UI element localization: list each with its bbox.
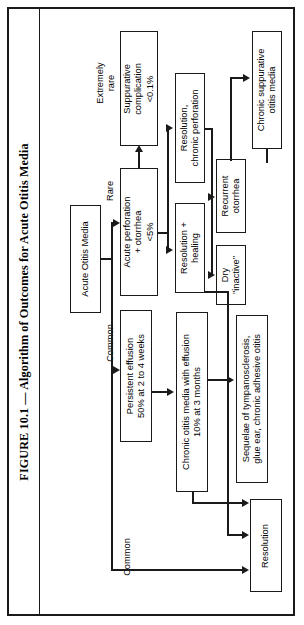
edge-label-rare: Rare xyxy=(103,169,117,213)
connector-trunk-vertical xyxy=(111,222,113,570)
node-persistent-effusion[interactable]: Persistent effusion50% at 2 to 4 weeks xyxy=(120,310,152,442)
connector-reshealing-right xyxy=(205,291,229,293)
arrowhead-res-healing xyxy=(166,246,173,254)
node-label: Resolution xyxy=(260,500,271,591)
arrowhead-persistent-effusion xyxy=(113,366,120,374)
node-label: Suppurativecomplication<0.1% xyxy=(122,32,156,145)
node-chronic-otitis-media-effusion[interactable]: Chronic otitis media with effusion10% at… xyxy=(176,312,208,492)
connector-perforation-suppurative xyxy=(138,149,140,169)
node-label: Sequelae of tympanosclerosis,glue ear, c… xyxy=(241,316,264,482)
node-label: Recurrentotorrhea xyxy=(220,160,243,232)
arrowhead-res-chronic xyxy=(166,124,173,132)
node-acute-otitis-media[interactable]: Acute Otitis Media xyxy=(70,205,101,313)
arrowhead-csom xyxy=(243,74,250,82)
connector-suppurative-csom xyxy=(266,149,268,163)
arrowhead-recurrent xyxy=(208,193,215,201)
node-label: Acute perforation+ otorrhea<5% xyxy=(122,169,156,295)
node-label: Dry"inactive" xyxy=(220,246,243,304)
arrowhead-suppurative xyxy=(135,145,143,152)
arrowhead-resolution-come xyxy=(242,499,249,507)
figure-title-strip: FIGURE 10.1 — Algorithm of Outcomes for … xyxy=(9,9,40,614)
connector-come-to-resolution xyxy=(192,502,245,504)
node-sequelae[interactable]: Sequelae of tympanosclerosis,glue ear, c… xyxy=(236,315,268,483)
connector-recurrent-up xyxy=(230,77,232,161)
node-resolution-healing[interactable]: Resolution +healing xyxy=(175,203,205,293)
node-label: Persistent effusion50% at 2 to 4 weeks xyxy=(125,311,148,441)
node-recurrent-otorrhea[interactable]: Recurrentotorrhea xyxy=(216,159,246,233)
node-label: Acute Otitis Media xyxy=(80,206,91,312)
arrowhead-resolution-common xyxy=(242,566,249,574)
node-resolution-chronic-perforation[interactable]: Resolution,chronic perforation xyxy=(175,73,205,183)
node-label: Resolution,chronic perforation xyxy=(179,74,202,182)
edge-label-extremely-rare: Extremelyrare xyxy=(97,47,115,119)
node-suppurative-complication[interactable]: Suppurativecomplication<0.1% xyxy=(120,31,158,146)
figure-frame: FIGURE 10.1 — Algorithm of Outcomes for … xyxy=(7,7,295,616)
edge-label-common-top: Common xyxy=(103,315,117,371)
connector-reshealing-down xyxy=(227,291,229,535)
node-resolution[interactable]: Resolution xyxy=(250,499,282,592)
node-label: Chronic otitis media with effusion10% at… xyxy=(181,313,204,491)
node-acute-perforation[interactable]: Acute perforation+ otorrhea<5% xyxy=(120,168,158,296)
edge-label-common-bottom: Common xyxy=(120,529,134,585)
connector-reschronic-branch-vertical xyxy=(211,128,213,275)
page-title: FIGURE 10.1 — Algorithm of Outcomes for … xyxy=(17,143,32,480)
arrowhead-sequelae xyxy=(227,376,234,384)
node-dry-inactive[interactable]: Dry"inactive" xyxy=(216,245,246,305)
arrowhead-come xyxy=(167,388,174,396)
arrowhead-resolution-healing xyxy=(242,531,249,539)
flowchart-canvas: Acute Otitis Media Acute perforation+ ot… xyxy=(40,9,293,614)
connector-perforation-branch-vertical xyxy=(167,127,169,250)
node-chronic-suppurative-otitis-media[interactable]: Chronic suppurativeotitis media xyxy=(252,31,282,149)
arrowhead-dry xyxy=(208,271,215,279)
node-label: Resolution +healing xyxy=(179,204,202,292)
connector-to-resolution-common xyxy=(111,569,245,571)
arrowhead-acute-perforation xyxy=(113,219,120,227)
node-label: Chronic suppurativeotitis media xyxy=(256,32,279,148)
